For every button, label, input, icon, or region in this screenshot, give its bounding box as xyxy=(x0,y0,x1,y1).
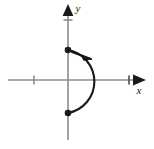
coordinate-plane-figure: x y xyxy=(0,0,154,149)
y-axis-label: y xyxy=(75,2,81,14)
upper-endpoint-dot xyxy=(65,47,72,54)
figure-canvas: x y xyxy=(0,0,154,149)
y-axis-arrowhead-icon xyxy=(63,4,74,16)
x-axis-label: x xyxy=(136,84,142,96)
lower-endpoint-dot xyxy=(65,110,72,117)
direction-arrowhead-icon xyxy=(81,54,93,61)
